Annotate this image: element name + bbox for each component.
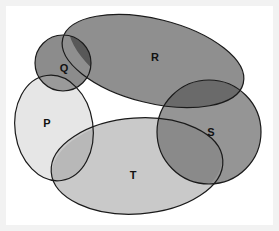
set-fills — [8, 6, 261, 220]
set-label-S: S — [207, 126, 214, 138]
set-label-R: R — [151, 51, 159, 63]
figure-frame: P Q R S T — [0, 0, 279, 231]
set-label-T: T — [130, 169, 137, 181]
set-label-Q: Q — [60, 62, 69, 74]
diagram-plate: P Q R S T — [6, 6, 273, 225]
set-label-P: P — [43, 117, 50, 129]
venn-diagram-canvas: P Q R S T — [6, 6, 273, 225]
